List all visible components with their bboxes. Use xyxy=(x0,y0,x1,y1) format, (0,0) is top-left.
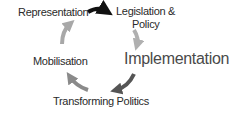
arrow-legislation-to-implementation xyxy=(134,30,138,45)
arrow-implementation-to-transforming xyxy=(116,74,134,90)
node-legislation-line1: Legislation & xyxy=(116,5,175,17)
node-implementation: Implementation xyxy=(124,50,229,68)
node-mobilisation: Mobilisation xyxy=(33,55,87,67)
arrow-mobilisation-to-representation xyxy=(62,24,70,44)
node-representation: Representation xyxy=(18,6,88,18)
node-legislation-line2: Policy xyxy=(132,18,160,30)
node-transforming-politics: Transforming Politics xyxy=(53,95,149,107)
arrow-representation-to-legislation xyxy=(88,9,106,12)
arrow-transforming-to-mobilisation xyxy=(70,77,88,90)
